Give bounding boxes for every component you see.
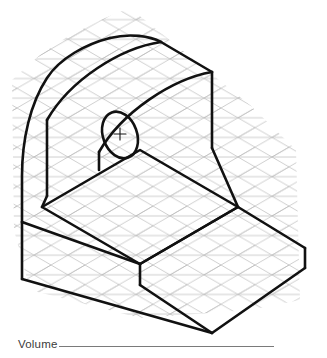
drawing-sheet: Volume bbox=[0, 0, 327, 358]
isometric-grid-background bbox=[0, 0, 327, 358]
isometric-drawing-canvas bbox=[0, 0, 327, 358]
volume-prompt-row: Volume bbox=[18, 338, 318, 356]
volume-answer-blank[interactable] bbox=[59, 346, 274, 347]
volume-prompt-label: Volume bbox=[18, 338, 58, 350]
